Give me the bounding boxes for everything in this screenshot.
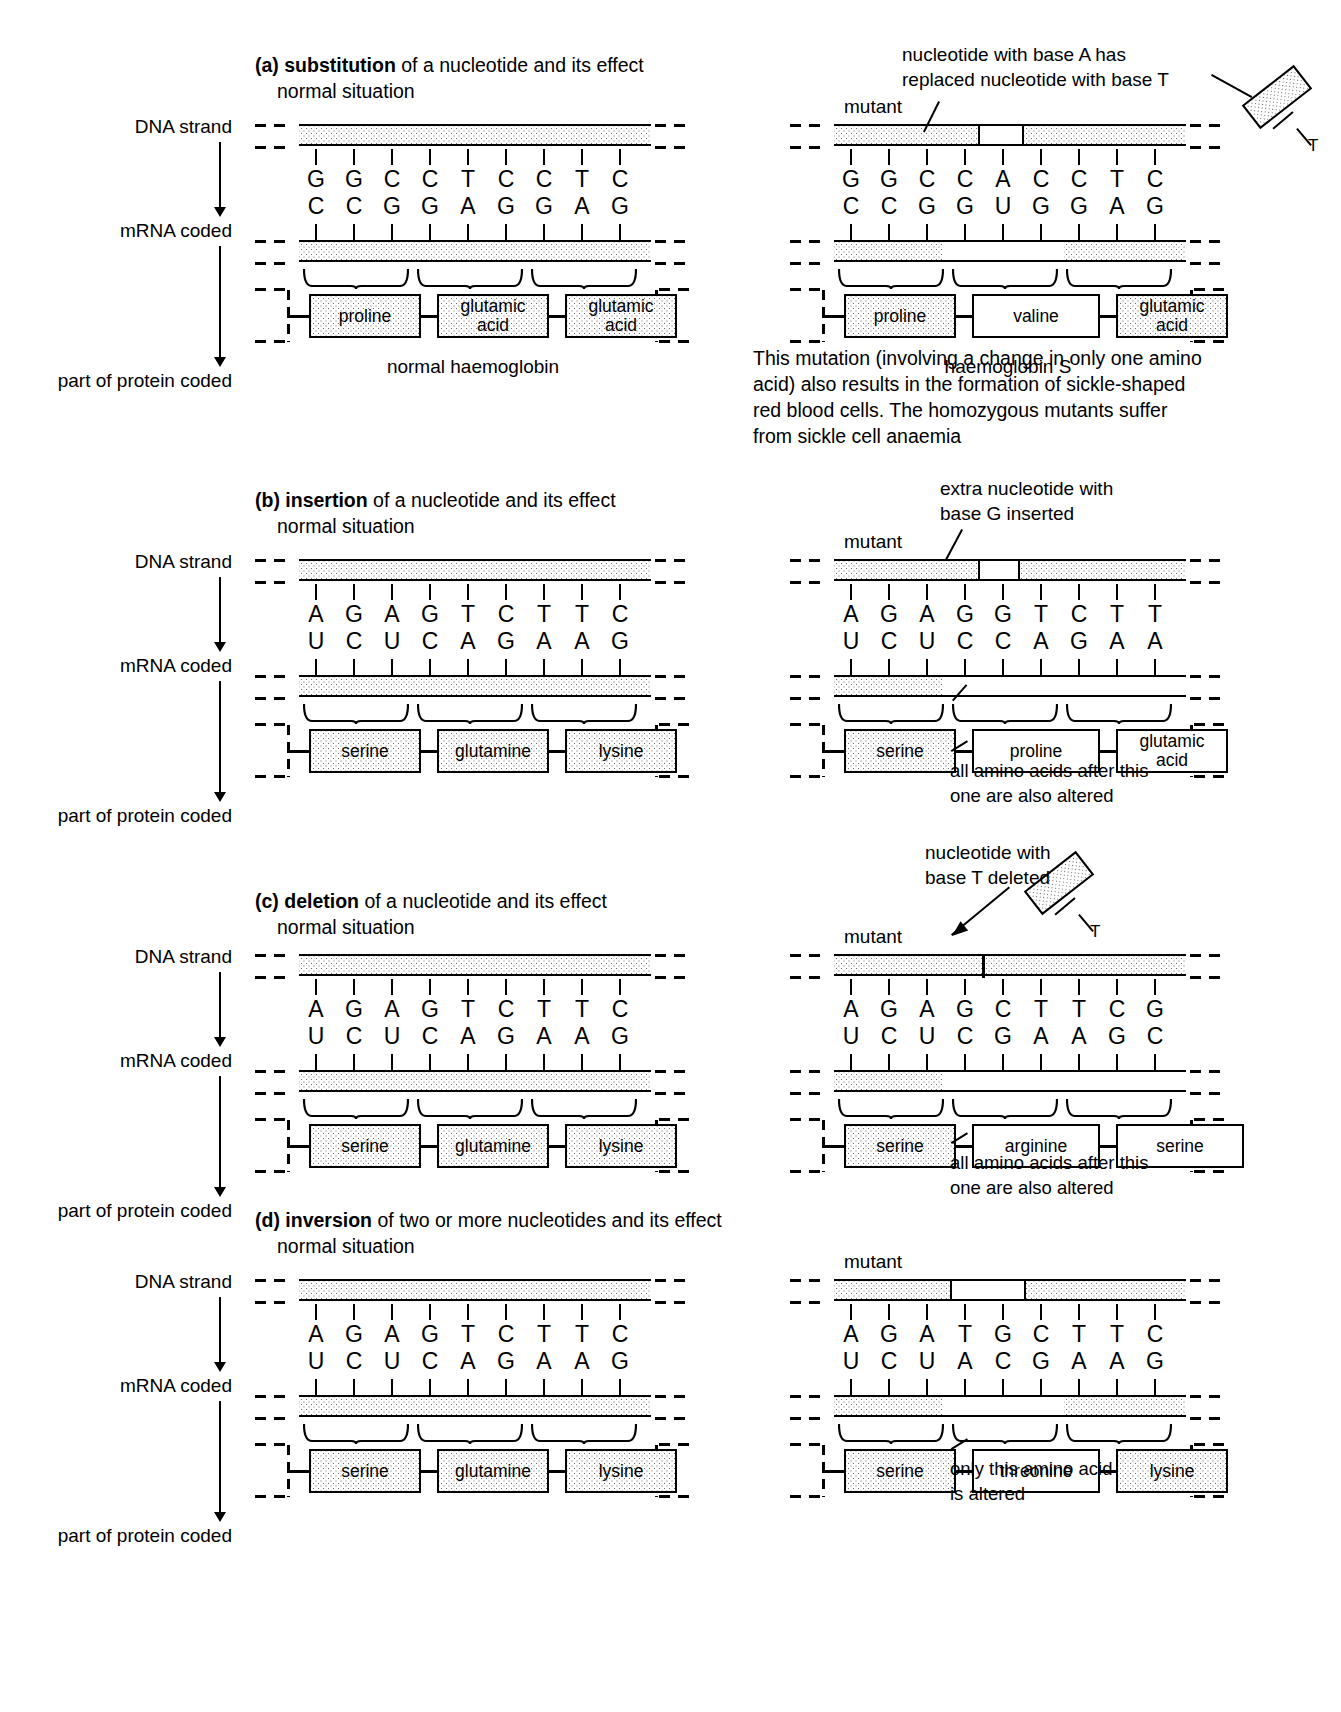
dna-base: C: [990, 998, 1016, 1021]
strand-blank-segment: [978, 126, 1024, 144]
mutation-note-b: all amino acids after this one are also …: [950, 758, 1148, 808]
mrna-right-dash-lower: [655, 697, 689, 700]
mrna-base: C: [341, 1025, 367, 1048]
protein-bond: [287, 750, 309, 753]
mrna-right-dash-upper: [655, 1070, 689, 1073]
mrna-base: G: [417, 195, 443, 218]
amino-acid-label: serine: [876, 1137, 924, 1156]
tick: [1116, 659, 1118, 675]
tick: [391, 1379, 393, 1395]
mrna-base: G: [1028, 195, 1054, 218]
dna-base: A: [379, 998, 405, 1021]
side-label-mrna: mRNA coded: [120, 653, 232, 678]
side-label-dna: DNA strand: [135, 1269, 232, 1294]
mrna-base: G: [1028, 1350, 1054, 1373]
tick: [1040, 1054, 1042, 1070]
mrna-strand: [834, 1395, 1186, 1417]
codon-brace: [1066, 268, 1172, 290]
amino-acid-box: glutamine: [437, 1124, 549, 1168]
tick: [1116, 224, 1118, 240]
protein-dash: [659, 288, 693, 291]
strand-blank-segment: [950, 1281, 1026, 1299]
protein-dash: [790, 288, 824, 291]
mrna-strand: [299, 1395, 651, 1417]
tick: [888, 584, 890, 600]
mrna-base: A: [569, 1025, 595, 1048]
dna-base: C: [914, 168, 940, 191]
detached-nucleotide-c: T: [1020, 862, 1120, 952]
mrna-base: U: [838, 1350, 864, 1373]
tick: [543, 659, 545, 675]
tick: [1040, 149, 1042, 165]
tick: [543, 979, 545, 995]
amino-acid-box: lysine: [565, 1124, 677, 1168]
amino-acid-box: lysine: [565, 729, 677, 773]
tick: [353, 1379, 355, 1395]
tick: [964, 1054, 966, 1070]
protein-bond: [1100, 1145, 1116, 1148]
dna-base: T: [1066, 1323, 1092, 1346]
protein-dash: [659, 775, 693, 778]
tick: [926, 584, 928, 600]
dna-base: G: [838, 168, 864, 191]
mrna-base: U: [379, 1025, 405, 1048]
mrna-right-dash-lower: [655, 262, 689, 265]
tick: [1002, 1304, 1004, 1320]
mrna-base: A: [531, 1025, 557, 1048]
mrna-right-dash-upper: [655, 240, 689, 243]
dna-base: T: [1104, 603, 1130, 626]
mrna-base: A: [569, 195, 595, 218]
mrna-base: A: [455, 195, 481, 218]
amino-acid-label: serine: [341, 1462, 389, 1481]
dna-right-dash-upper: [655, 954, 689, 957]
dna-right-dash-upper: [655, 124, 689, 127]
protein-dash: [1194, 340, 1228, 343]
dna-base: T: [569, 168, 595, 191]
dna-strand: [834, 559, 1186, 581]
mrna-base: A: [1066, 1025, 1092, 1048]
dna-base: A: [379, 603, 405, 626]
protein-dash: [255, 723, 289, 726]
protein-bond: [549, 315, 565, 318]
tick: [1040, 584, 1042, 600]
dna-base: C: [531, 168, 557, 191]
protein-dash: [255, 340, 289, 343]
protein-dash: [659, 723, 693, 726]
mutant-label: mutant: [844, 1249, 902, 1274]
mrna-base: C: [876, 1350, 902, 1373]
tick: [1078, 979, 1080, 995]
tick: [888, 979, 890, 995]
codon-brace: [417, 703, 523, 725]
panel-keyword: insertion: [285, 489, 367, 511]
flow-arrow: [219, 1401, 221, 1513]
mrna-base: G: [493, 630, 519, 653]
codon-brace: [417, 1098, 523, 1120]
tick: [1002, 149, 1004, 165]
tick: [1116, 1054, 1118, 1070]
mrna-base: G: [531, 195, 557, 218]
protein-dash: [255, 1495, 289, 1498]
protein-dash: [659, 1443, 693, 1446]
tick: [1002, 224, 1004, 240]
dna-strand: [299, 1279, 651, 1301]
tick: [926, 1379, 928, 1395]
tick: [1078, 149, 1080, 165]
side-label-column: DNA strandmRNA codedpart of protein code…: [0, 1255, 250, 1545]
mrna-stipple-fill: [1064, 242, 1186, 260]
dna-base: G: [952, 603, 978, 626]
codon-brace: [531, 703, 637, 725]
dna-base: A: [838, 603, 864, 626]
amino-acid-box: serine: [844, 1449, 956, 1493]
codon-brace: [531, 1098, 637, 1120]
panel-title-c: (c) deletion of a nucleotide and its eff…: [255, 888, 607, 914]
tick: [888, 1379, 890, 1395]
tick: [619, 659, 621, 675]
amino-acid-box: glutamic acid: [565, 294, 677, 338]
protein-bond: [1100, 750, 1116, 753]
tick: [926, 149, 928, 165]
tick: [505, 149, 507, 165]
protein-bond: [956, 1145, 972, 1148]
codon-brace: [838, 1423, 944, 1445]
mrna-right-dash-lower: [1190, 1092, 1224, 1095]
tick: [850, 224, 852, 240]
